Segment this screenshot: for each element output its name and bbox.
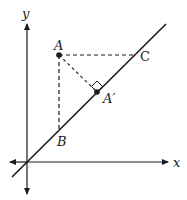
label-x: x — [173, 155, 181, 170]
reflection-diagram: y x A A′ B C — [0, 0, 187, 200]
label-B: B — [56, 134, 67, 149]
label-y: y — [21, 6, 30, 21]
point-A-prime — [94, 89, 100, 95]
label-A-prime: A′ — [102, 91, 115, 106]
label-C: C — [140, 49, 150, 64]
line-y-equals-x — [12, 24, 166, 177]
point-A — [56, 52, 62, 58]
label-A: A — [53, 38, 63, 53]
